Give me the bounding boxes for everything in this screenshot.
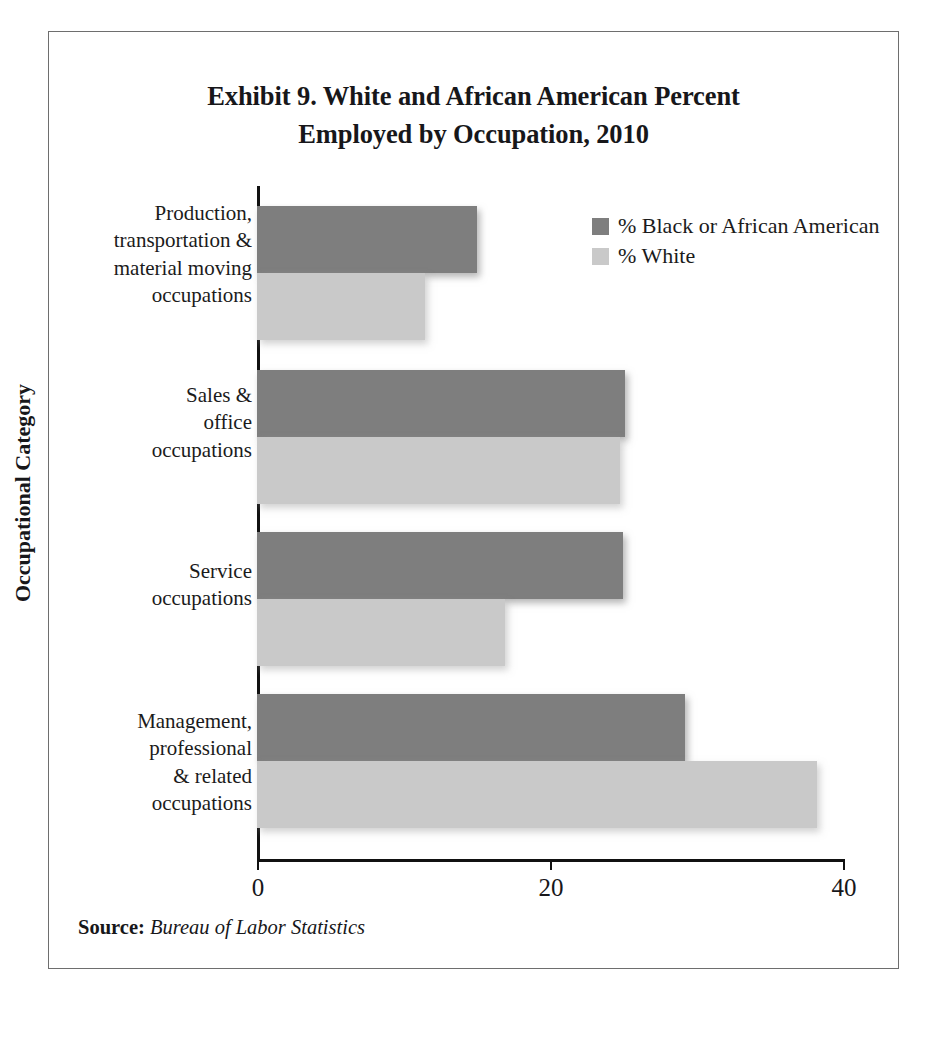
plot-area: 0 20 40 <box>257 186 845 859</box>
legend-label-white: % White <box>618 243 695 269</box>
source-value: Bureau of Labor Statistics <box>150 916 365 938</box>
x-tick-label-40: 40 <box>832 874 857 902</box>
bar-production-black[interactable] <box>257 206 477 273</box>
bar-service-white[interactable] <box>257 599 505 666</box>
bar-production-white[interactable] <box>257 273 425 340</box>
chart-title: Exhibit 9. White and African American Pe… <box>48 78 899 153</box>
x-tick-mark-40 <box>843 859 845 870</box>
category-label-sales: Sales & office occupations <box>47 382 252 464</box>
source-note: Source: Bureau of Labor Statistics <box>78 916 365 939</box>
y-axis-title: Occupational Category <box>10 333 36 653</box>
y-axis-category-labels: Production, transportation & material mo… <box>36 186 252 859</box>
legend-entry-black[interactable]: % Black or African American <box>592 211 879 241</box>
chart-title-line-1: Exhibit 9. White and African American Pe… <box>48 78 899 116</box>
x-tick-mark-0 <box>257 859 259 870</box>
legend-label-black: % Black or African American <box>618 213 879 239</box>
category-label-service: Service occupations <box>47 558 252 613</box>
bar-sales-white[interactable] <box>257 437 620 504</box>
source-label: Source: <box>78 916 145 938</box>
x-tick-label-20: 20 <box>539 874 564 902</box>
bar-service-black[interactable] <box>257 532 623 599</box>
legend-entry-white[interactable]: % White <box>592 241 879 271</box>
bar-management-black[interactable] <box>257 694 685 761</box>
bar-sales-black[interactable] <box>257 370 625 437</box>
legend-swatch-black-icon <box>592 218 609 235</box>
x-tick-label-0: 0 <box>252 874 265 902</box>
category-label-management: Management, professional & related occup… <box>47 708 252 817</box>
chart-legend: % Black or African American % White <box>592 211 879 271</box>
legend-swatch-white-icon <box>592 248 609 265</box>
bar-management-white[interactable] <box>257 761 817 828</box>
chart-title-line-2: Employed by Occupation, 2010 <box>48 116 899 154</box>
x-tick-mark-20 <box>550 859 552 870</box>
category-label-production: Production, transportation & material mo… <box>47 200 252 309</box>
